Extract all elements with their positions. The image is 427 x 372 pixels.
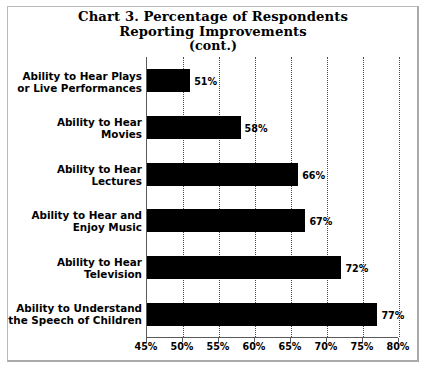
plot-area: 51%58%66%67%72%77% [146,57,398,338]
chart-title-line-1: Chart 3. Percentage of Respondents [78,9,348,24]
chart-title: Chart 3. Percentage of Respondents Repor… [9,10,417,54]
category-label-line: the Speech of Children [8,314,142,326]
bar [147,209,305,232]
bar-value-label: 77% [381,310,404,321]
bar-value-label: 51% [194,76,217,87]
tick-label: 70% [315,341,338,352]
category-label: Ability to Hear Television [6,256,146,281]
category-label: Ability to Understand the Speech of Chil… [6,302,146,327]
category-label-line: Enjoy Music [73,221,142,233]
gridline [255,57,256,337]
bar [147,116,241,139]
bar [147,303,377,326]
category-label-line: Ability to Hear [57,256,142,268]
bar-value-label: 58% [245,123,268,134]
tick-label: 50% [171,341,194,352]
bar [147,69,190,92]
chart-title-line-2: Reporting Improvements [9,25,417,40]
gridline [219,57,220,337]
gridline [327,57,328,337]
category-label-line: or Live Performances [17,82,142,94]
value-axis: 45%50%55%60%65%70%75%80% [0,341,427,359]
category-label-line: Ability to Hear [57,116,142,128]
category-label-line: Ability to Hear [57,163,142,175]
gridline [363,57,364,337]
category-label-line: Television [84,268,142,280]
category-label-line: Ability to Hear and [31,209,142,221]
category-label-line: Ability to Understand [16,302,142,314]
bar [147,256,341,279]
tick-label: 55% [207,341,230,352]
chart-screenshot: Chart 3. Percentage of Respondents Repor… [0,0,427,372]
tick-label: 80% [387,341,410,352]
bar-value-label: 66% [302,170,325,181]
category-label: Ability to Hear Movies [6,116,146,141]
chart-title-line-3: (cont.) [9,39,417,54]
tick-label: 45% [135,341,158,352]
category-label: Ability to Hear Lectures [6,163,146,188]
category-label: Ability to Hear Plays or Live Performanc… [6,70,146,95]
tick-label: 75% [351,341,374,352]
gridline [399,57,400,337]
category-label: Ability to Hear and Enjoy Music [6,209,146,234]
gridline [291,57,292,337]
category-label-line: Lectures [91,175,142,187]
tick-label: 60% [243,341,266,352]
bar-value-label: 72% [345,263,368,274]
bar [147,163,298,186]
gridline [183,57,184,337]
tick-label: 65% [279,341,302,352]
category-axis: Ability to Hear Plays or Live Performanc… [0,57,146,338]
bar-value-label: 67% [309,216,332,227]
category-label-line: Movies [101,128,142,140]
category-label-line: Ability to Hear Plays [22,70,142,82]
